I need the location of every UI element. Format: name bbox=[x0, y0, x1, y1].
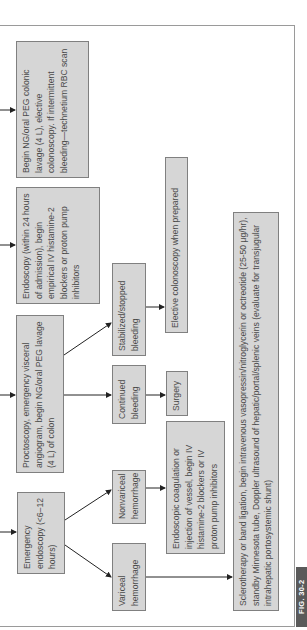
arrow-to-stabilized bbox=[64, 323, 111, 355]
figure-label: FIG. 30-2 bbox=[296, 567, 307, 627]
flow-arrows bbox=[0, 0, 307, 630]
arrow-to-nonvariceal bbox=[65, 490, 111, 520]
figure-label-text: FIG. 30-2 bbox=[297, 580, 306, 614]
arrow-to-variceal bbox=[65, 545, 111, 577]
